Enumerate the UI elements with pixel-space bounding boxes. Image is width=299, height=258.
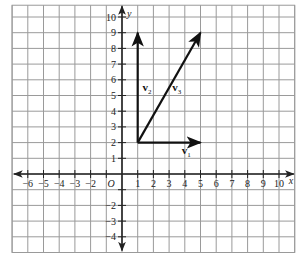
origin-label: O: [107, 178, 114, 189]
vector-chart: xy −6−5−4−3−21234567891010987654321−2−3−…: [0, 0, 299, 258]
y-tick-label: 2: [111, 137, 116, 148]
x-tick-label: −3: [70, 178, 81, 189]
y-tick-label: 5: [111, 90, 116, 101]
y-tick-label: 10: [106, 12, 116, 23]
y-tick-label: 3: [111, 121, 116, 132]
y-tick-label: 7: [111, 59, 116, 70]
x-tick-label: −5: [38, 178, 49, 189]
grid-lines: [12, 5, 295, 252]
y-tick-label: −2: [105, 200, 116, 211]
x-tick-label: 7: [229, 178, 234, 189]
x-tick-label: −2: [85, 178, 96, 189]
x-tick-label: 5: [198, 178, 203, 189]
x-tick-label: 8: [245, 178, 250, 189]
y-tick-label: −4: [105, 231, 116, 242]
y-tick-label: 1: [111, 153, 116, 164]
y-tick-label: −3: [105, 216, 116, 227]
x-tick-label: 1: [135, 178, 140, 189]
y-tick-label: 8: [111, 43, 116, 54]
y-tick-label: 4: [111, 106, 116, 117]
x-axis-label: x: [288, 175, 294, 186]
x-tick-label: 3: [167, 178, 172, 189]
x-tick-label: 10: [274, 178, 284, 189]
vector-label-v1: v1: [182, 144, 192, 159]
x-tick-label: 6: [214, 178, 219, 189]
x-tick-label: 4: [182, 178, 187, 189]
vector-label-v2: v2: [142, 81, 152, 96]
y-tick-label: 9: [111, 27, 116, 38]
x-tick-label: −6: [22, 178, 33, 189]
x-tick-label: 9: [261, 178, 266, 189]
axes: xy: [14, 6, 294, 250]
vector-label-v3: v3: [172, 81, 182, 96]
x-tick-label: −4: [54, 178, 65, 189]
y-axis-label: y: [126, 8, 132, 19]
y-tick-label: 6: [111, 74, 116, 85]
x-tick-label: 2: [151, 178, 156, 189]
